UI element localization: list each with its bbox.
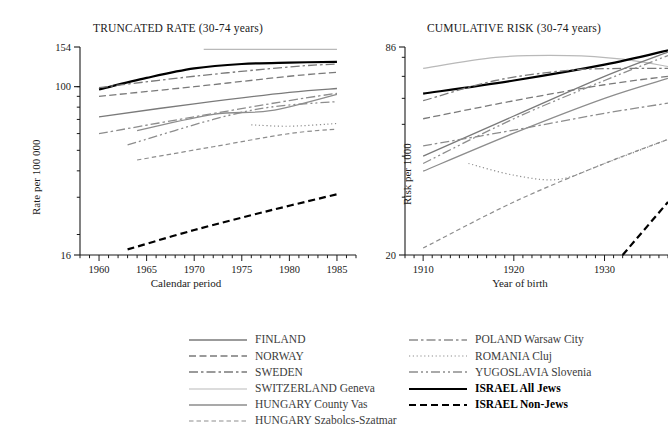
series-line [423, 68, 668, 100]
series-line [251, 123, 337, 126]
y-tick-label: 100 [55, 81, 71, 92]
legend-item[interactable]: SWITZERLAND Geneva [188, 381, 403, 397]
plot-area-truncated-rate: 19601965197019751980198516100154 [0, 0, 372, 300]
legend-label: ISRAEL All Jews [475, 383, 561, 395]
chart-panel-truncated-rate: TRUNCATED RATE (30-74 years) 19601965197… [0, 0, 372, 300]
x-tick-label: 1985 [326, 264, 347, 275]
legend-line-swatch [188, 366, 248, 378]
legend-label: SWITZERLAND Geneva [255, 383, 375, 395]
legend-item[interactable]: HUNGARY Szabolcs-Szatmar [188, 413, 403, 429]
y-tick-label: 154 [55, 42, 72, 53]
series-line [99, 72, 337, 96]
x-tick-label: 1910 [413, 264, 434, 275]
legend-label: HUNGARY Szabolcs-Szatmar [255, 415, 397, 427]
legend-label: POLAND Warsaw City [475, 334, 584, 346]
series-line [423, 103, 668, 146]
x-tick-label: 1975 [231, 264, 252, 275]
legend-label: NORWAY [255, 351, 304, 363]
y-tick-label: 16 [61, 250, 72, 261]
series-line [423, 76, 668, 118]
x-axis-label-cumulative-risk: Year of birth [372, 277, 668, 289]
legend-label: ISRAEL Non-Jews [475, 399, 568, 411]
legend-line-swatch [188, 334, 248, 346]
figure-canvas: TRUNCATED RATE (30-74 years) 19601965197… [0, 0, 668, 432]
series-line [137, 129, 337, 160]
legend-item[interactable]: ROMANIA Cluj [408, 348, 638, 364]
chart-legend: FINLANDNORWAYSWEDENSWITZERLAND GenevaHUN… [0, 332, 668, 432]
y-tick-label: 20 [386, 250, 397, 261]
legend-label: FINLAND [255, 334, 305, 346]
legend-item[interactable]: ISRAEL All Jews [408, 381, 638, 397]
legend-column-right: POLAND Warsaw CityROMANIA ClujYUGOSLAVIA… [408, 332, 638, 413]
series-line [128, 194, 337, 249]
legend-line-swatch [408, 399, 468, 411]
legend-label: HUNGARY County Vas [255, 399, 367, 411]
legend-line-swatch [408, 366, 468, 378]
y-axis-label-cumulative-risk: Risk per 1000 [401, 143, 413, 205]
legend-line-swatch [188, 415, 248, 427]
legend-label: ROMANIA Cluj [475, 351, 552, 363]
series-line [423, 55, 668, 68]
legend-line-swatch [188, 399, 248, 411]
legend-item[interactable]: FINLAND [188, 332, 403, 348]
chart-panel-cumulative-risk: CUMULATIVE RISK (30-74 years) 1910192019… [372, 0, 668, 300]
legend-column-left: FINLANDNORWAYSWEDENSWITZERLAND GenevaHUN… [188, 332, 403, 429]
legend-label: YUGOSLAVIA Slovenia [475, 367, 591, 379]
x-tick-label: 1980 [279, 264, 300, 275]
y-axis-label-truncated-rate: Rate per 100 000 [30, 140, 42, 215]
legend-item[interactable]: SWEDEN [188, 364, 403, 380]
x-tick-label: 1930 [594, 264, 615, 275]
x-axis-label-truncated-rate: Calendar period [0, 277, 372, 289]
legend-item[interactable]: POLAND Warsaw City [408, 332, 638, 348]
legend-line-swatch [408, 334, 468, 346]
legend-item[interactable]: ISRAEL Non-Jews [408, 397, 638, 413]
legend-line-swatch [188, 350, 248, 362]
legend-line-swatch [408, 383, 468, 395]
x-tick-label: 1960 [89, 264, 110, 275]
legend-item[interactable]: NORWAY [188, 348, 403, 364]
x-tick-label: 1965 [136, 264, 157, 275]
series-line [468, 139, 668, 180]
legend-line-swatch [408, 350, 468, 362]
x-tick-label: 1970 [184, 264, 205, 275]
series-line [623, 202, 668, 255]
legend-item[interactable]: YUGOSLAVIA Slovenia [408, 364, 638, 380]
legend-label: SWEDEN [255, 367, 303, 379]
legend-item[interactable]: HUNGARY County Vas [188, 397, 403, 413]
series-line [137, 94, 337, 130]
plot-area-cumulative-risk: 1910192019302086 [372, 0, 668, 300]
series-line [423, 50, 668, 93]
x-tick-label: 1920 [503, 264, 524, 275]
legend-line-swatch [188, 383, 248, 395]
y-tick-label: 86 [386, 42, 397, 53]
